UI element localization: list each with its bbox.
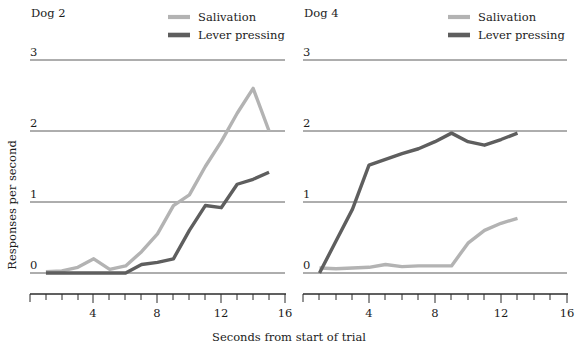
ytick-0-right: 0 (303, 258, 310, 272)
series-salivation-dog-2 (46, 88, 269, 271)
legend-right: Salivation Lever pressing (448, 10, 565, 42)
legend-label-salivation-right: Salivation (478, 10, 537, 24)
ytick-1-left: 1 (30, 187, 37, 201)
ytick-3-left: 3 (30, 45, 37, 59)
panel-dog-4: Dog 4 3 2 1 0 (303, 6, 574, 320)
panel-title-right: Dog 4 (304, 6, 338, 20)
x-axis-title: Seconds from start of trial (212, 330, 366, 344)
panel-title-left: Dog 2 (31, 6, 65, 20)
xtick-16-right: 16 (560, 306, 575, 320)
series-lever-dog-2 (46, 172, 269, 273)
ytick-2-left: 2 (30, 116, 37, 130)
legend-label-salivation-left: Salivation (198, 10, 257, 24)
ytick-1-right: 1 (303, 187, 310, 201)
xtick-4-right: 4 (365, 306, 372, 320)
xtick-8-left: 8 (153, 306, 160, 320)
xtick-4-left: 4 (89, 306, 96, 320)
legend-label-lever-right: Lever pressing (478, 28, 565, 42)
dual-line-chart-svg: Dog 2 3 2 1 0 (0, 0, 578, 348)
xtick-12-left: 12 (214, 306, 229, 320)
x-axis-ticks-left (30, 294, 285, 303)
xtick-12-right: 12 (494, 306, 509, 320)
chart-figure-root: Dog 2 3 2 1 0 (0, 0, 578, 348)
y-axis-title: Responses per second (5, 140, 19, 270)
panel-dog-2: Dog 2 3 2 1 0 (30, 6, 292, 320)
xtick-8-right: 8 (431, 306, 438, 320)
x-axis-ticks-right (303, 294, 567, 303)
legend-left: Salivation Lever pressing (168, 10, 285, 42)
ytick-2-right: 2 (303, 116, 310, 130)
xtick-16-left: 16 (278, 306, 293, 320)
legend-label-lever-left: Lever pressing (198, 28, 285, 42)
ytick-3-right: 3 (303, 45, 310, 59)
ytick-0-left: 0 (30, 258, 37, 272)
series-lever-dog-4 (320, 133, 518, 273)
series-salivation-dog-4 (320, 218, 518, 268)
